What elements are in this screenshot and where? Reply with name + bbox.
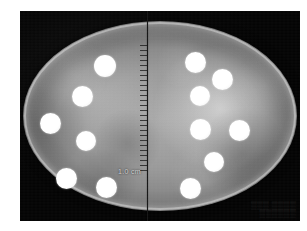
disc-left-4 — [76, 131, 96, 151]
disc-right-5 — [229, 120, 250, 141]
scale-label: 1.0 cm — [118, 168, 141, 175]
disc-left-6 — [96, 177, 117, 198]
screenshot-root: 1.0 cm ▒▒▒ ▒▒▒▒ ▒▒▒▒▒▒ — [0, 0, 307, 231]
radiograph-plate: 1.0 cm ▒▒▒ ▒▒▒▒ ▒▒▒▒▒▒ — [20, 11, 300, 221]
disc-right-4 — [190, 119, 211, 140]
disc-right-6 — [204, 152, 224, 172]
vertical-ruler-divider — [147, 11, 148, 221]
disc-left-2 — [72, 86, 93, 107]
disc-right-7 — [180, 178, 201, 199]
corner-imprint-line-2: ▒▒▒▒▒▒ — [251, 210, 296, 218]
disc-left-1 — [94, 55, 116, 77]
disc-left-3 — [40, 113, 61, 134]
disc-left-5 — [56, 168, 77, 189]
disc-right-2 — [212, 69, 233, 90]
disc-right-1 — [185, 52, 206, 73]
disc-right-3 — [190, 86, 210, 106]
corner-imprint-text: ▒▒▒ ▒▒▒▒ ▒▒▒▒▒▒ — [251, 202, 296, 218]
